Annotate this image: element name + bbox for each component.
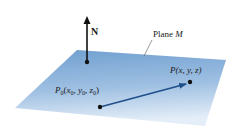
plane-label-prefix: Plane (153, 29, 175, 39)
plane-label-leader (144, 40, 152, 56)
point-p0-label: P0(x0, y0, z0) (55, 86, 99, 96)
plane-label: Plane M (153, 30, 183, 39)
point-p (188, 80, 192, 84)
plane-diagram (0, 0, 238, 131)
point-p-label: P(x, y, z) (170, 66, 202, 75)
point-p-coords: (x, y, z) (176, 65, 202, 75)
normal-base-point (85, 60, 89, 64)
normal-label: N (91, 27, 98, 37)
plane-label-name: M (175, 29, 183, 39)
normal-arrowhead-icon (84, 16, 91, 24)
plane-m (15, 50, 226, 126)
point-p0 (98, 105, 102, 109)
